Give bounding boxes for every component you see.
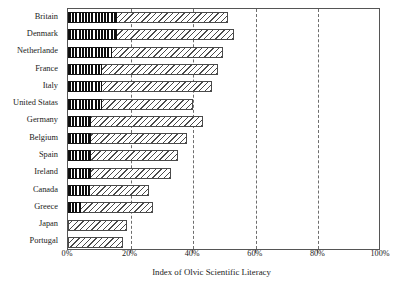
category-label-portugal: Portugal xyxy=(30,237,58,245)
bar-inner-segment xyxy=(68,185,90,196)
bar-row xyxy=(68,12,381,23)
bar-inner-segment xyxy=(68,150,91,161)
bar-inner-segment xyxy=(68,12,117,23)
plot-area xyxy=(67,8,380,250)
category-axis-labels: BritainDenmarkNetherlandeFranceItalyUnit… xyxy=(0,8,62,250)
bar-row xyxy=(68,220,381,231)
category-label-belgium: Belgium xyxy=(29,134,58,142)
bar-row xyxy=(68,64,381,75)
bar-row xyxy=(68,202,381,213)
bar-row xyxy=(68,150,381,161)
bar-total xyxy=(68,237,123,248)
bar-row xyxy=(68,29,381,40)
x-tick-mark-20 xyxy=(130,250,131,253)
bar-row xyxy=(68,185,381,196)
bar-row xyxy=(68,237,381,248)
bar-inner-segment xyxy=(68,64,102,75)
category-label-japan: Japan xyxy=(39,220,58,228)
category-label-france: France xyxy=(35,65,58,73)
bars-group xyxy=(68,9,379,249)
category-label-denmark: Denmark xyxy=(27,30,58,38)
category-label-greece: Greece xyxy=(34,203,58,211)
bar-chart: BritainDenmarkNetherlandeFranceItalyUnit… xyxy=(0,0,398,290)
bar-inner-segment xyxy=(68,47,112,58)
x-tick-mark-60 xyxy=(255,250,256,253)
bar-row xyxy=(68,133,381,144)
bar-row xyxy=(68,116,381,127)
category-label-germany: Germany xyxy=(27,116,58,124)
category-label-canada: Canada xyxy=(33,186,58,194)
bar-inner-segment xyxy=(68,116,91,127)
bar-total xyxy=(68,220,127,231)
x-axis-tick-labels: 0%20%40%60%80%100% xyxy=(0,250,398,264)
bar-inner-segment xyxy=(68,99,102,110)
x-tick-label-0: 0% xyxy=(62,250,73,258)
bar-inner-segment xyxy=(68,168,91,179)
bar-total xyxy=(68,202,153,213)
category-label-netherlande: Netherlande xyxy=(17,47,58,55)
x-tick-mark-80 xyxy=(317,250,318,253)
x-tick-mark-40 xyxy=(192,250,193,253)
bar-row xyxy=(68,81,381,92)
x-axis-title-text: Index of Olvic Scientific Literacy xyxy=(152,268,271,277)
bar-inner-segment xyxy=(68,202,81,213)
category-label-ireland: Ireland xyxy=(34,168,58,176)
bar-row xyxy=(68,47,381,58)
x-tick-label-100: 100% xyxy=(370,250,389,258)
bar-inner-segment xyxy=(68,133,91,144)
category-label-italy: Italy xyxy=(43,82,58,90)
category-label-united-statas: United Statas xyxy=(13,99,58,107)
bar-row xyxy=(68,99,381,110)
bar-inner-segment xyxy=(68,81,102,92)
x-axis-title: Index of Olvic Scientific Literacy xyxy=(0,268,398,277)
bar-inner-segment xyxy=(68,29,117,40)
bar-row xyxy=(68,168,381,179)
category-label-britain: Britain xyxy=(35,13,58,21)
category-label-spain: Spain xyxy=(39,151,58,159)
